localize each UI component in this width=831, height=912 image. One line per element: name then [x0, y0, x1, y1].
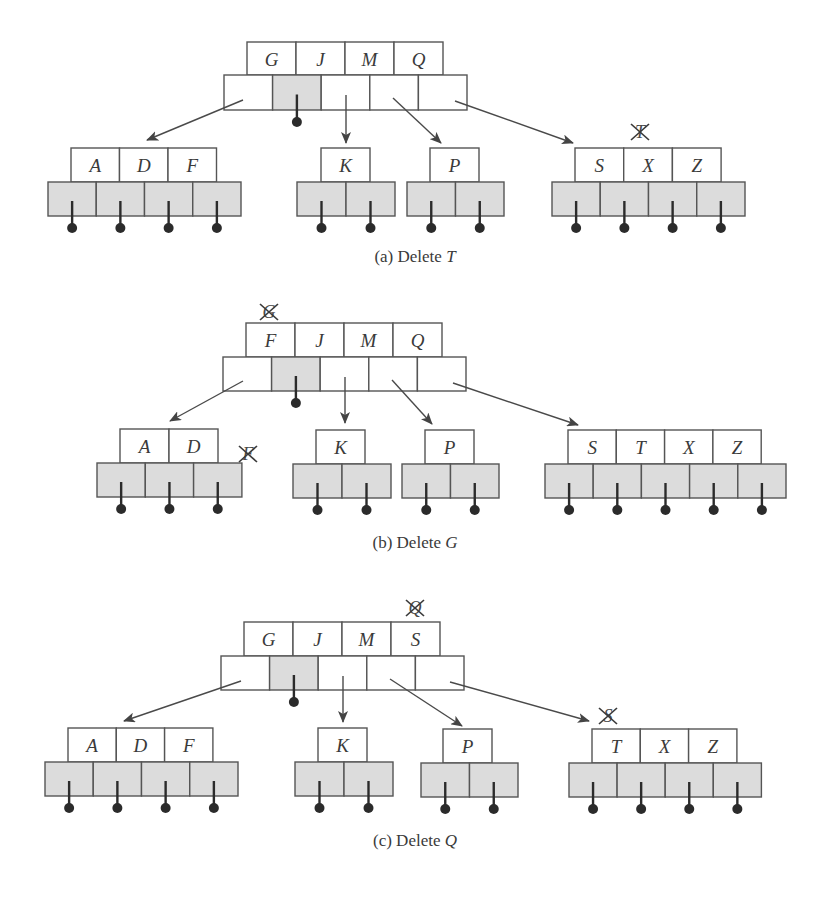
- pointer-cell: [223, 357, 272, 391]
- child-pointer-arrow-icon: [147, 100, 243, 140]
- null-pointer-dot-icon: [67, 223, 77, 233]
- null-pointer-dot-icon: [757, 505, 767, 515]
- leaf-node: ADF: [45, 728, 238, 813]
- caption-prefix: (a) Delete: [374, 247, 446, 266]
- key-label: M: [360, 330, 378, 351]
- null-pointer-dot-icon: [588, 804, 598, 814]
- null-pointer-dot-icon: [292, 117, 302, 127]
- null-pointer-dot-icon: [470, 505, 480, 515]
- key-label: P: [448, 155, 461, 176]
- null-pointer-dot-icon: [112, 803, 122, 813]
- panel-a: GJMQADFKPSXZT(a) Delete T: [48, 42, 745, 266]
- null-pointer-dot-icon: [661, 505, 671, 515]
- null-pointer-dot-icon: [161, 803, 171, 813]
- null-pointer-dot-icon: [289, 697, 299, 707]
- null-pointer-dot-icon: [64, 803, 74, 813]
- caption-deleted-key: T: [446, 247, 457, 266]
- key-label: A: [87, 155, 101, 176]
- null-pointer-dot-icon: [315, 803, 325, 813]
- null-pointer-dot-icon: [366, 223, 376, 233]
- key-label: A: [84, 735, 98, 756]
- key-label: F: [185, 155, 198, 176]
- deleted-key-marker: Q: [406, 598, 424, 618]
- caption-prefix: (b) Delete: [373, 533, 446, 552]
- leaf-node: P: [421, 729, 518, 814]
- null-pointer-dot-icon: [364, 803, 374, 813]
- null-pointer-dot-icon: [709, 505, 719, 515]
- key-label: A: [137, 436, 151, 457]
- null-pointer-dot-icon: [564, 505, 574, 515]
- leaf-node: K: [293, 430, 391, 515]
- null-pointer-dot-icon: [421, 505, 431, 515]
- null-pointer-dot-icon: [440, 804, 450, 814]
- key-label: S: [587, 437, 597, 458]
- caption-prefix: (c) Delete: [373, 831, 445, 850]
- child-pointer-arrow-icon: [124, 681, 241, 721]
- pointer-cell: [417, 357, 466, 391]
- null-pointer-dot-icon: [212, 223, 222, 233]
- child-pointer-arrow-icon: [453, 383, 578, 425]
- key-label: T: [635, 437, 647, 458]
- key-label: Q: [412, 49, 426, 70]
- leaf-node: ADF: [48, 148, 241, 233]
- null-pointer-dot-icon: [668, 223, 678, 233]
- key-label: Z: [732, 437, 743, 458]
- null-pointer-dot-icon: [164, 223, 174, 233]
- null-pointer-dot-icon: [489, 804, 499, 814]
- key-label: K: [338, 155, 353, 176]
- leaf-node: K: [297, 148, 395, 233]
- deleted-key-marker: S: [599, 706, 617, 726]
- key-label: G: [265, 49, 279, 70]
- key-label: S: [411, 629, 421, 650]
- child-pointer-arrow-icon: [455, 101, 573, 143]
- key-label: Q: [411, 330, 425, 351]
- panel-c: GJMSQADFKPTXZS(c) Delete Q: [45, 598, 761, 850]
- panel-b: FJMQGADFKPSTXZ(b) Delete G: [97, 302, 786, 552]
- leaf-node: TXZS: [569, 706, 761, 814]
- key-label: Z: [691, 155, 702, 176]
- leaf-node: ADF: [97, 429, 257, 514]
- null-pointer-dot-icon: [636, 804, 646, 814]
- null-pointer-dot-icon: [362, 505, 372, 515]
- key-label: K: [335, 735, 350, 756]
- child-pointer-arrow-icon: [450, 682, 589, 721]
- null-pointer-dot-icon: [164, 504, 174, 514]
- null-pointer-dot-icon: [684, 804, 694, 814]
- null-pointer-dot-icon: [716, 223, 726, 233]
- key-label: T: [611, 736, 623, 757]
- key-label: M: [358, 629, 376, 650]
- key-label: D: [186, 436, 201, 457]
- null-pointer-dot-icon: [317, 223, 327, 233]
- deleted-key-marker: G: [260, 302, 278, 322]
- pointer-cell: [370, 75, 419, 110]
- leaf-node: STXZ: [545, 430, 786, 515]
- child-pointer-arrow-icon: [170, 381, 243, 421]
- pointer-cell: [369, 357, 418, 391]
- key-label: P: [461, 736, 474, 757]
- null-pointer-dot-icon: [313, 505, 323, 515]
- leaf-node: P: [402, 430, 499, 515]
- leaf-node: SXZT: [552, 122, 745, 233]
- key-label: D: [136, 155, 151, 176]
- null-pointer-dot-icon: [209, 803, 219, 813]
- null-pointer-dot-icon: [426, 223, 436, 233]
- pointer-cell: [418, 75, 467, 110]
- key-label: G: [262, 629, 276, 650]
- key-label: K: [333, 437, 348, 458]
- leaf-node: K: [295, 728, 393, 813]
- panels-container: GJMQADFKPSXZT(a) Delete TFJMQGADFKPSTXZ(…: [45, 42, 786, 850]
- leaf-node: P: [407, 148, 504, 233]
- null-pointer-dot-icon: [115, 223, 125, 233]
- key-label: Z: [707, 736, 718, 757]
- caption-deleted-key: Q: [445, 831, 457, 850]
- key-label: X: [641, 155, 655, 176]
- null-pointer-dot-icon: [732, 804, 742, 814]
- null-pointer-dot-icon: [116, 504, 126, 514]
- panel-caption: (a) Delete T: [374, 247, 457, 266]
- null-pointer-dot-icon: [612, 505, 622, 515]
- panel-caption: (c) Delete Q: [373, 831, 457, 850]
- key-label: P: [443, 437, 456, 458]
- b-tree-deletion-diagram: GJMQADFKPSXZT(a) Delete TFJMQGADFKPSTXZ(…: [0, 0, 831, 912]
- key-label: M: [361, 49, 379, 70]
- null-pointer-dot-icon: [291, 398, 301, 408]
